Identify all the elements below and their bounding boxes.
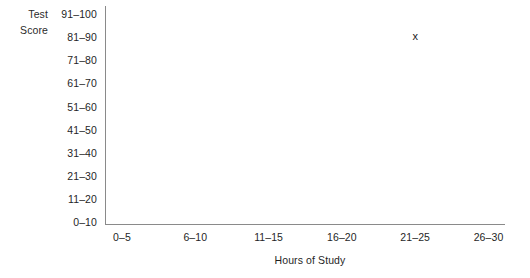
x-axis-line — [105, 224, 505, 225]
y-axis-tick-label: 21–30 — [47, 170, 97, 182]
y-axis-tick-label: 91–100 — [47, 8, 97, 20]
y-axis-tick-label: 51–60 — [47, 101, 97, 113]
y-axis-tick-label: 81–90 — [47, 31, 97, 43]
x-axis-tick-labels: 0–56–1011–1516–2021–2526–30 — [0, 231, 530, 247]
x-axis-title: Hours of Study — [205, 253, 415, 267]
y-axis-tick-label: 61–70 — [47, 77, 97, 89]
x-axis-tick-label: 26–30 — [454, 231, 524, 244]
y-axis-title-line-1: Test — [0, 6, 48, 22]
y-axis-tick-label: 11–20 — [47, 193, 97, 205]
y-axis-tick-labels: 91–10081–9071–8061–7051–6041–5031–4021–3… — [50, 0, 100, 228]
y-axis-tick-label: 41–50 — [47, 124, 97, 136]
y-axis-title: Test Score — [0, 6, 48, 38]
x-axis-tick-label: 6–10 — [160, 231, 230, 244]
data-point-marker: x — [408, 31, 422, 42]
x-axis-tick-label: 16–20 — [307, 231, 377, 244]
chart-screenshot: Test Score 91–10081–9071–8061–7051–6041–… — [0, 0, 530, 278]
y-axis-title-line-2: Score — [0, 22, 48, 38]
x-axis-tick-label: 0–5 — [87, 231, 157, 244]
x-axis-tick-label: 11–15 — [234, 231, 304, 244]
y-axis-tick-label: 0–10 — [47, 216, 97, 228]
y-axis-tick-label: 71–80 — [47, 54, 97, 66]
y-axis-tick-label: 31–40 — [47, 147, 97, 159]
x-axis-tick-label: 21–25 — [380, 231, 450, 244]
plot-area: x — [106, 6, 505, 224]
